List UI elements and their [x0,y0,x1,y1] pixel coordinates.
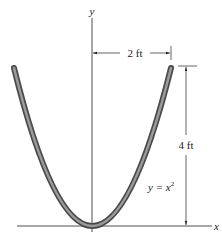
y-axis-label: y [89,5,95,17]
equation-label: y = x2 [147,180,175,193]
x-axis-label: x [213,220,219,232]
rod-inner [14,68,171,226]
dim-4ft-label: 4 ft [179,139,194,151]
dim-2ft-label: 2 ft [128,47,143,59]
parabolic-rod-diagram: 2 ft 4 ft y = x2 y x [0,0,222,239]
